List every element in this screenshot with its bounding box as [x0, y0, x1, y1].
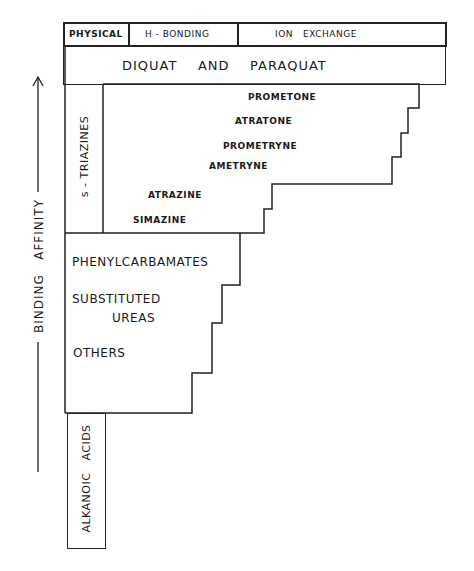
axis-label: BINDING AFFINITY — [32, 194, 46, 339]
axis-label-cell: BINDING AFFINITY — [18, 195, 58, 340]
binding-affinity-arrow — [0, 0, 474, 571]
